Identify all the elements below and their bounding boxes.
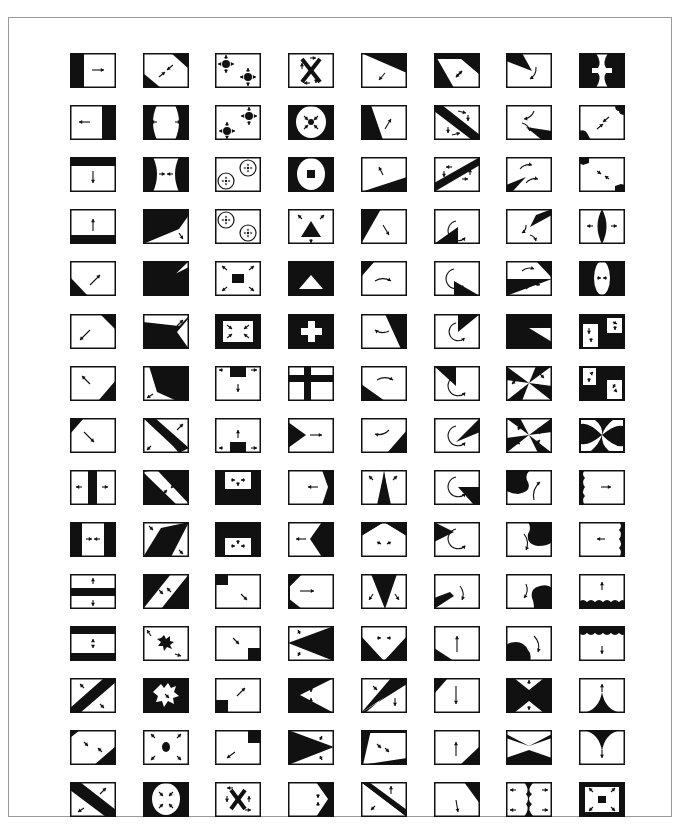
wipe-r15c6-icon [434, 782, 480, 817]
wipe-r8c5-icon [361, 418, 407, 453]
wipe-r2c3-icon [215, 105, 261, 140]
wipe-r12c5-icon [361, 626, 407, 661]
wipe-r9c4-icon [288, 470, 334, 505]
wipe-r9c5-icon [361, 470, 407, 505]
wipe-pattern-icon [579, 209, 625, 244]
wipe-pattern-icon [288, 418, 334, 453]
wipe-r5c5-icon [361, 261, 407, 296]
wipe-pattern-icon [288, 678, 334, 713]
wipe-pattern-icon [215, 678, 261, 713]
wipe-pattern-icon [70, 730, 116, 765]
wipe-r1c6-icon [434, 53, 480, 88]
wipe-pattern-icon [506, 105, 552, 140]
wipe-pattern-icon [506, 209, 552, 244]
wipe-pattern-icon [70, 678, 116, 713]
wipe-pattern-icon [579, 678, 625, 713]
wipe-r3c4-icon [288, 157, 334, 192]
wipe-pattern-icon [215, 209, 261, 244]
wipe-pattern-icon [288, 470, 334, 505]
wipe-pattern-icon [215, 522, 261, 557]
wipe-r10c3-icon [215, 522, 261, 557]
wipe-pattern-icon [215, 157, 261, 192]
wipe-pattern-icon [361, 53, 407, 88]
wipe-pattern-icon [143, 105, 189, 140]
wipe-r4c1-icon [70, 209, 116, 244]
wipe-pattern-icon [579, 105, 625, 140]
wipe-pattern-icon [70, 105, 116, 140]
wipe-r13c8-icon [579, 678, 625, 713]
wipe-pattern-icon [579, 730, 625, 765]
wipe-r14c3-icon [215, 730, 261, 765]
wipe-pattern-icon [215, 626, 261, 661]
wipe-pattern-icon [143, 470, 189, 505]
wipe-pattern-icon [434, 626, 480, 661]
wipe-pattern-icon [143, 626, 189, 661]
wipe-r11c6-icon [434, 574, 480, 609]
wipe-pattern-icon [579, 626, 625, 661]
wipe-pattern-icon [506, 678, 552, 713]
wipe-pattern-icon [288, 366, 334, 401]
wipe-r7c3-icon [215, 366, 261, 401]
wipe-pattern-icon [506, 157, 552, 192]
wipe-r12c7-icon [506, 626, 552, 661]
wipe-r15c2-icon [143, 782, 189, 817]
wipe-r8c2-icon [143, 418, 189, 453]
wipe-pattern-icon [361, 366, 407, 401]
wipe-pattern-icon [70, 418, 116, 453]
wipe-pattern-icon [506, 366, 552, 401]
wipe-r3c7-icon [506, 157, 552, 192]
wipe-pattern-icon [506, 314, 552, 349]
wipe-r13c5-icon [361, 678, 407, 713]
wipe-r14c1-icon [70, 730, 116, 765]
wipe-pattern-icon [434, 782, 480, 817]
wipe-r6c1-icon [70, 314, 116, 349]
wipe-r14c4-icon [288, 730, 334, 765]
wipe-r3c2-icon [143, 157, 189, 192]
wipe-pattern-icon [434, 314, 480, 349]
wipe-r2c1-icon [70, 105, 116, 140]
wipe-r4c2-icon [143, 209, 189, 244]
wipe-r8c3-icon [215, 418, 261, 453]
wipe-pattern-icon [361, 418, 407, 453]
wipe-r10c2-icon [143, 522, 189, 557]
wipe-pattern-icon [434, 261, 480, 296]
wipe-r15c1-icon [70, 782, 116, 817]
wipe-r3c6-icon [434, 157, 480, 192]
wipe-pattern-icon [579, 522, 625, 557]
wipe-r6c8-icon [579, 314, 625, 349]
wipe-r15c3-icon [215, 782, 261, 817]
wipe-r4c6-icon [434, 209, 480, 244]
wipe-r14c7-icon [506, 730, 552, 765]
wipe-r14c6-icon [434, 730, 480, 765]
wipe-pattern-icon [506, 730, 552, 765]
wipe-pattern-icon [143, 418, 189, 453]
wipe-pattern-icon [361, 730, 407, 765]
wipe-pattern-icon [143, 730, 189, 765]
wipe-r10c7-icon [506, 522, 552, 557]
wipe-pattern-icon [70, 522, 116, 557]
wipe-pattern-icon [70, 574, 116, 609]
wipe-r2c8-icon [579, 105, 625, 140]
wipe-r9c7-icon [506, 470, 552, 505]
wipe-r10c4-icon [288, 522, 334, 557]
wipe-pattern-icon [434, 522, 480, 557]
wipe-r10c6-icon [434, 522, 480, 557]
wipe-r9c2-icon [143, 470, 189, 505]
wipe-pattern-icon [434, 157, 480, 192]
wipe-pattern-icon [434, 470, 480, 505]
wipe-pattern-icon [143, 261, 189, 296]
wipe-pattern-icon [215, 366, 261, 401]
wipe-r1c8-icon [579, 53, 625, 88]
wipe-r13c6-icon [434, 678, 480, 713]
wipe-r13c7-icon [506, 678, 552, 713]
wipe-pattern-icon [434, 418, 480, 453]
wipe-r12c3-icon [215, 626, 261, 661]
wipe-r11c8-icon [579, 574, 625, 609]
wipe-r11c2-icon [143, 574, 189, 609]
wipe-pattern-icon [361, 678, 407, 713]
wipe-r2c4-icon [288, 105, 334, 140]
wipe-r3c1-icon [70, 157, 116, 192]
wipe-r3c8-icon [579, 157, 625, 192]
wipe-pattern-icon [70, 209, 116, 244]
wipe-pattern-icon [579, 53, 625, 88]
